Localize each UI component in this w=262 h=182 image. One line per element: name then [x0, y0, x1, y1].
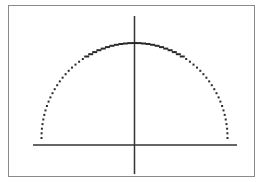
data-point — [78, 61, 80, 63]
data-point — [41, 137, 43, 139]
data-point — [71, 67, 73, 69]
data-point — [41, 132, 43, 134]
data-point — [205, 77, 207, 79]
data-point — [82, 58, 84, 60]
data-point — [219, 101, 221, 103]
data-point — [68, 70, 70, 72]
data-point — [56, 84, 58, 86]
data-point — [225, 119, 227, 121]
data-point — [114, 44, 119, 46]
data-point — [101, 48, 106, 50]
data-point — [224, 114, 226, 116]
data-point — [221, 105, 223, 107]
data-point — [109, 45, 114, 47]
data-point — [92, 51, 97, 53]
data-point — [137, 42, 142, 44]
data-point — [202, 73, 204, 75]
data-point — [42, 119, 44, 121]
data-point — [172, 51, 177, 53]
data-point — [54, 88, 56, 90]
data-point — [168, 49, 173, 51]
data-point — [223, 109, 225, 111]
data-point — [226, 132, 228, 134]
data-point — [96, 49, 101, 51]
data-point — [105, 46, 110, 48]
data-point — [155, 45, 160, 47]
data-point — [189, 61, 191, 63]
data-point — [118, 43, 123, 45]
semicircle-plot — [0, 0, 262, 182]
data-point — [84, 56, 89, 58]
data-point — [146, 43, 151, 45]
data-point — [48, 101, 50, 103]
data-point — [216, 92, 218, 94]
data-point — [42, 123, 44, 125]
data-point — [226, 123, 228, 125]
data-point — [159, 46, 164, 48]
data-point — [218, 96, 220, 98]
data-point — [45, 109, 47, 111]
data-point — [208, 80, 210, 82]
data-point — [150, 44, 155, 46]
data-point — [46, 105, 48, 107]
data-point — [185, 58, 187, 60]
data-point — [213, 88, 215, 90]
data-point — [180, 56, 185, 58]
data-point — [163, 48, 168, 50]
data-point — [88, 53, 93, 55]
data-point — [62, 77, 64, 79]
data-point — [227, 137, 229, 139]
data-point — [43, 114, 45, 116]
data-point — [59, 80, 61, 82]
data-point — [52, 92, 54, 94]
data-point — [49, 96, 51, 98]
data-point — [226, 128, 228, 130]
data-point — [41, 128, 43, 130]
data-point — [132, 42, 137, 44]
data-point — [211, 84, 213, 86]
data-point — [193, 64, 195, 66]
data-point — [75, 64, 77, 66]
data-point — [196, 67, 198, 69]
data-point — [65, 73, 67, 75]
data-point — [176, 53, 181, 55]
data-point — [123, 43, 128, 45]
data-point — [199, 70, 201, 72]
data-point — [141, 43, 146, 45]
data-point — [127, 42, 132, 44]
